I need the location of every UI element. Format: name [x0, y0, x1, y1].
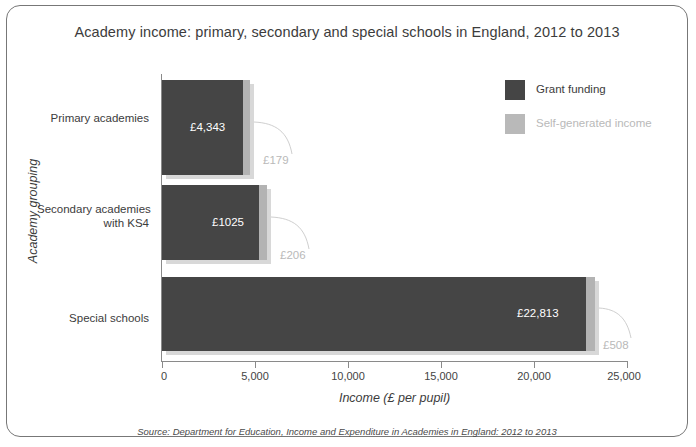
x-tick-label-25000: 25,000 — [607, 370, 641, 382]
page-title: Academy income: primary, secondary and s… — [7, 24, 687, 40]
legend-swatch-self-generated-income — [505, 114, 525, 134]
bar-value-grant-primary: £4,343 — [190, 121, 225, 133]
legend-label-grant-funding: Grant funding — [536, 83, 606, 95]
legend-swatch-grant-funding — [505, 80, 525, 100]
x-tick-label-5000: 5,000 — [241, 370, 269, 382]
bar-value-grant-secondary: £1025 — [212, 216, 244, 228]
x-tick-25000 — [627, 361, 628, 368]
x-tick-label-15000: 15,000 — [424, 370, 458, 382]
x-tick-label-10000: 10,000 — [331, 370, 365, 382]
x-tick-5000 — [255, 361, 256, 368]
bar-value-self-primary: £179 — [263, 154, 289, 166]
category-label-primary: Primary academies — [37, 111, 149, 125]
bar-segment-grant-secondary[interactable] — [162, 185, 259, 260]
x-tick-label-20000: 20,000 — [517, 370, 551, 382]
category-label-secondary: Secondary academies with KS4 — [37, 202, 149, 230]
category-label-secondary-line2: with KS4 — [104, 217, 149, 229]
x-axis-title: Income (£ per pupil) — [162, 391, 627, 405]
x-tick-label-0: 0 — [161, 370, 167, 382]
category-label-secondary-line1: Secondary academies — [37, 203, 151, 215]
legend-label-self-generated-income: Self-generated income — [536, 117, 652, 129]
bar-segment-self-special[interactable] — [586, 277, 595, 351]
category-label-special: Special schools — [37, 311, 149, 325]
bar-segment-self-secondary[interactable] — [259, 185, 267, 260]
chart-frame: Academy income: primary, secondary and s… — [6, 5, 688, 437]
x-tick-20000 — [534, 361, 535, 368]
x-tick-0 — [162, 361, 163, 368]
bar-value-grant-special: £22,813 — [517, 307, 559, 319]
x-axis-line — [161, 361, 627, 362]
category-label-primary-line1: Primary academies — [51, 112, 149, 124]
bar-segment-self-primary[interactable] — [243, 80, 250, 175]
x-tick-10000 — [348, 361, 349, 368]
bar-value-self-special: £508 — [603, 339, 629, 351]
bar-value-self-secondary: £206 — [280, 249, 306, 261]
category-label-special-line1: Special schools — [69, 312, 149, 324]
source-text: Source: Department for Education, Income… — [137, 426, 557, 437]
x-tick-15000 — [441, 361, 442, 368]
source-line: Source: Department for Education, Income… — [7, 421, 687, 439]
